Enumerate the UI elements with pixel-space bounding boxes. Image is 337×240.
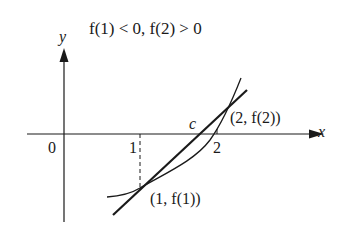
x-axis-label: x [318,124,325,140]
y-axis-label: y [59,29,66,45]
chart-title: f(1) < 0, f(2) > 0 [89,20,202,37]
x-tick-label-2: 2 [213,140,221,156]
origin-label: 0 [48,140,56,156]
x-tick-label-1: 1 [129,140,137,156]
point-a-label: (1, f(1)) [150,191,201,207]
root-label: c [189,116,196,132]
y-axis-arrow-icon [60,48,69,62]
point-b-label: (2, f(2)) [230,110,281,126]
function-curve [107,78,241,197]
